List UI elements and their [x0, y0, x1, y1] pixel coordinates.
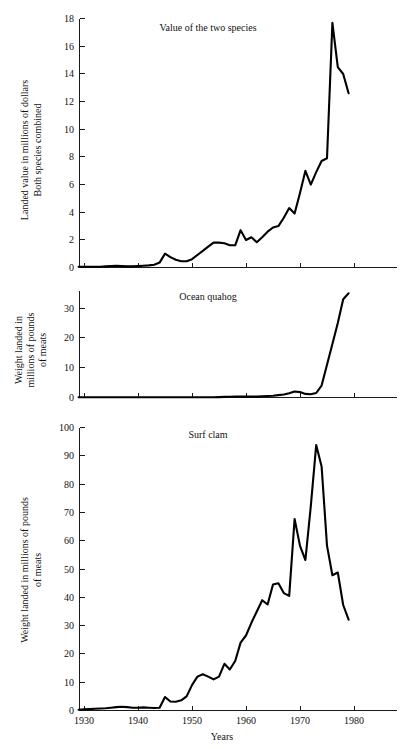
y-tick-middle-0: 0 — [69, 392, 74, 403]
y-tick-bottom-50: 50 — [64, 564, 74, 575]
y-tick-bottom-60: 60 — [64, 535, 74, 546]
y-ticks-middle — [80, 308, 85, 397]
y-tick-top-4: 4 — [69, 207, 74, 218]
y-axis-middle: 30 20 10 0 — [64, 291, 85, 404]
panel-title-middle: Ocean quahog — [179, 291, 236, 302]
y-tick-bottom-80: 80 — [64, 479, 74, 490]
ylabel-top-line2: Both species combined — [32, 104, 43, 197]
x-axis-bottom: 1930 1940 1950 1960 1970 1980 — [74, 706, 397, 727]
y-tick-top-0: 0 — [69, 262, 74, 273]
y-tick-bottom-70: 70 — [64, 507, 74, 518]
figure-container: Value of the two species Landed value in… — [0, 0, 407, 749]
y-tick-middle-30: 30 — [64, 303, 74, 314]
three-panel-timeseries-figure: Value of the two species Landed value in… — [0, 0, 407, 749]
ylabel-top-line1: Landed value in millions of dollars — [19, 80, 30, 220]
data-line-middle — [79, 293, 349, 397]
x-tick-1950: 1950 — [182, 715, 202, 726]
y-tick-bottom-10: 10 — [64, 677, 74, 688]
ylabel-bottom-line2: of meats — [32, 553, 43, 587]
x-tick-1930: 1930 — [74, 715, 94, 726]
y-tick-top-18: 18 — [64, 13, 74, 24]
y-tick-bottom-30: 30 — [64, 620, 74, 631]
panel-value-of-two-species: Value of the two species Landed value in… — [19, 13, 397, 273]
panel-title-bottom: Surf clam — [188, 429, 227, 440]
x-tick-1970: 1970 — [290, 715, 310, 726]
y-tick-top-2: 2 — [69, 234, 74, 245]
y-tick-top-8: 8 — [69, 151, 74, 162]
data-line-top — [79, 23, 349, 267]
y-tick-top-14: 14 — [64, 68, 74, 79]
y-ticks-bottom — [80, 428, 85, 711]
y-tick-top-10: 10 — [64, 124, 74, 135]
ylabel-middle-line1: Weight landed in — [13, 316, 24, 384]
y-tick-top-16: 16 — [64, 41, 74, 52]
y-axis-top: 18 16 14 12 10 8 6 4 2 0 — [64, 13, 85, 273]
y-tick-middle-20: 20 — [64, 332, 74, 343]
x-tick-1940: 1940 — [128, 715, 148, 726]
y-tick-middle-10: 10 — [64, 362, 74, 373]
y-tick-top-6: 6 — [69, 179, 74, 190]
panel-title-top: Value of the two species — [159, 22, 256, 33]
x-tick-1980: 1980 — [344, 715, 364, 726]
y-ticks-top — [80, 19, 85, 268]
y-axis-bottom: 100 90 80 70 60 50 40 30 20 10 0 — [59, 422, 85, 716]
y-tick-top-12: 12 — [64, 96, 74, 107]
ylabel-bottom-line1: Weight landed in millions of pounds — [19, 497, 30, 643]
y-tick-bottom-90: 90 — [64, 450, 74, 461]
panel-ocean-quahog: Ocean quahog Weight landed in millions o… — [13, 291, 397, 404]
y-tick-bottom-100: 100 — [59, 422, 74, 433]
data-line-bottom — [79, 445, 349, 710]
ylabel-middle-line2: millions of pounds — [25, 312, 36, 387]
xlabel-years: Years — [211, 731, 233, 742]
panel-surf-clam: Surf clam Weight landed in millions of p… — [19, 422, 397, 742]
y-tick-bottom-40: 40 — [64, 592, 74, 603]
ylabel-middle-line3: of meats — [37, 333, 48, 367]
x-tick-1960: 1960 — [236, 715, 256, 726]
y-tick-bottom-20: 20 — [64, 648, 74, 659]
